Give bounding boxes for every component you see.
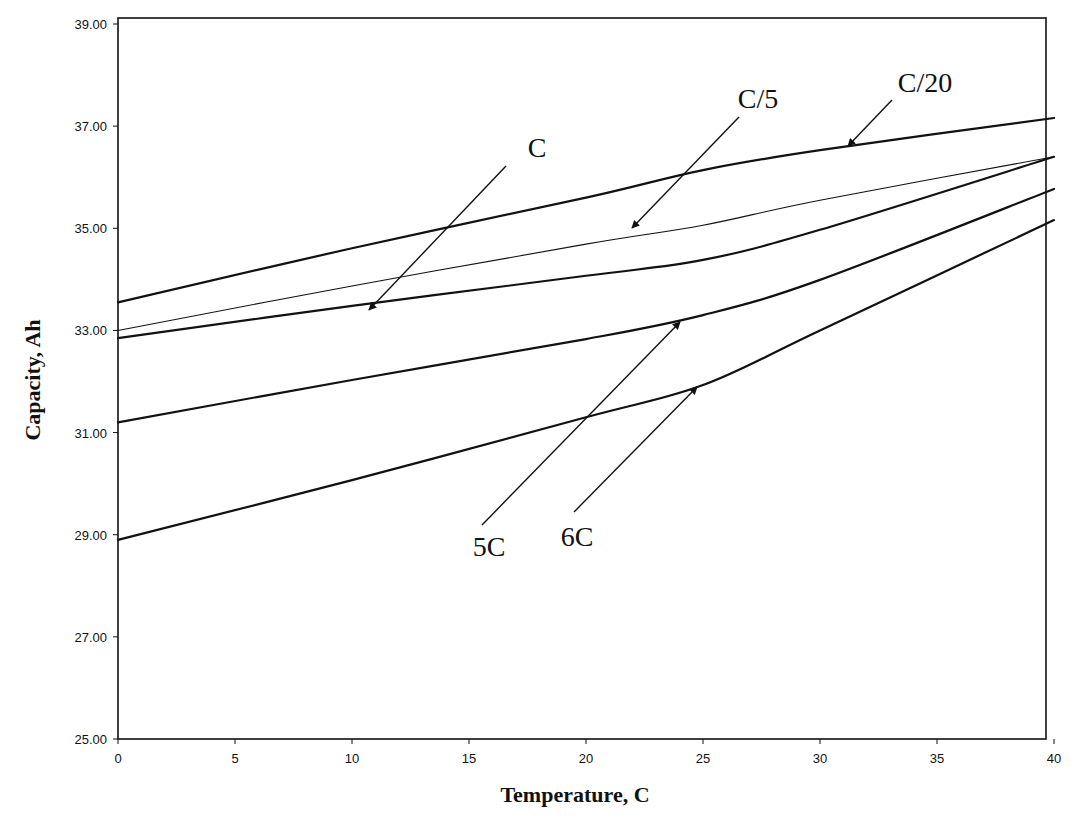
annotation-label: C — [528, 132, 547, 163]
y-tick-label: 35.00 — [74, 221, 107, 236]
x-tick-label: 30 — [813, 751, 827, 766]
y-axis-title: Capacity, Ah — [20, 319, 45, 440]
y-tick-label: 37.00 — [74, 119, 107, 134]
x-tick-label: 40 — [1047, 751, 1061, 766]
x-tick-label: 25 — [696, 751, 710, 766]
y-tick-label: 27.00 — [74, 630, 107, 645]
x-tick-label: 5 — [231, 751, 238, 766]
annotation-label: C/20 — [898, 67, 952, 98]
annotation-label: C/5 — [738, 83, 778, 114]
x-axis-title: Temperature, C — [500, 782, 649, 807]
x-tick-label: 0 — [114, 751, 121, 766]
x-axis: 0510152025303540 — [114, 739, 1061, 766]
plot-area — [118, 18, 1046, 739]
y-tick-label: 29.00 — [74, 528, 107, 543]
y-tick-label: 31.00 — [74, 426, 107, 441]
y-axis: 25.0027.0029.0031.0033.0035.0037.0039.00 — [74, 17, 118, 747]
annotation-label: 6C — [561, 521, 594, 552]
x-tick-label: 35 — [930, 751, 944, 766]
y-tick-label: 25.00 — [74, 732, 107, 747]
x-tick-label: 10 — [345, 751, 359, 766]
y-tick-label: 39.00 — [74, 17, 107, 32]
plot-frame — [118, 18, 1046, 739]
y-tick-label: 33.00 — [74, 323, 107, 338]
capacity-vs-temperature-chart: 25.0027.0029.0031.0033.0035.0037.0039.00… — [0, 0, 1081, 818]
x-tick-label: 15 — [462, 751, 476, 766]
annotation-label: 5C — [473, 531, 506, 562]
x-tick-label: 20 — [579, 751, 593, 766]
